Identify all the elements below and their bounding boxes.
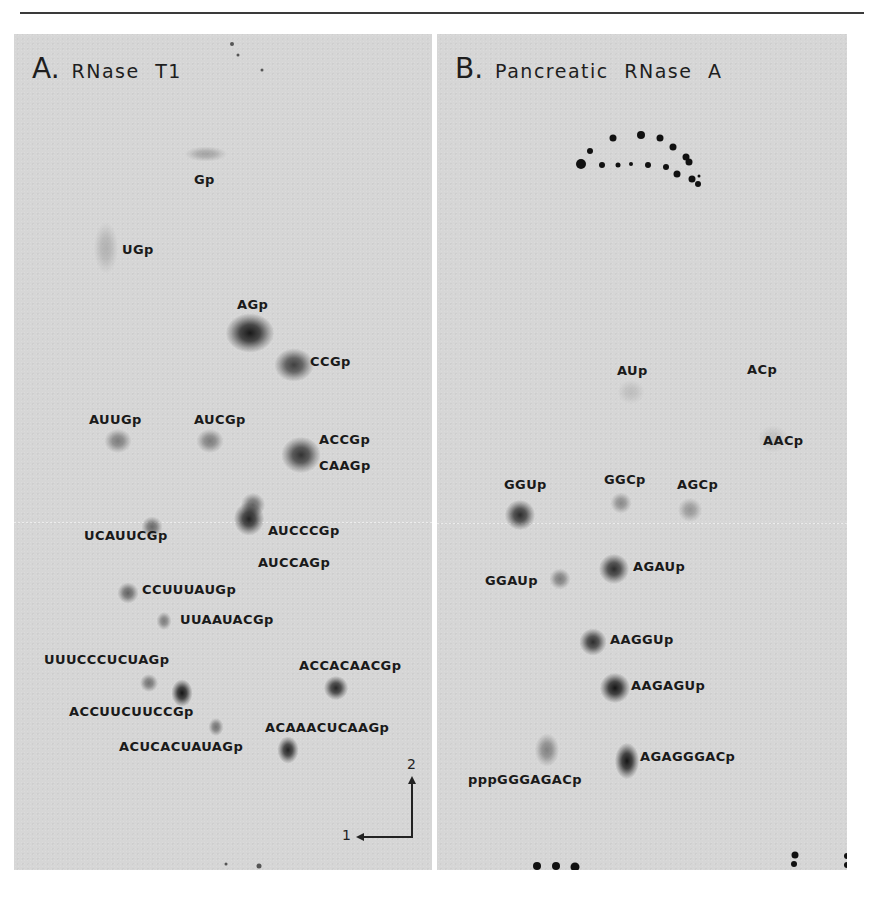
marker-dot [674,171,681,178]
spot-label: ACCUUCUUCCGp [69,704,194,719]
spot-label: ACp [747,362,777,377]
oligonucleotide-spot [234,503,264,536]
spot-label: AUCCCGp [268,523,340,538]
spot-label: GGUp [504,477,547,492]
spot-label: AUCCAGp [258,555,330,570]
spot-label: AUp [617,363,648,378]
spot-label: AAGGUp [610,632,674,647]
oligonucleotide-spot [278,737,299,764]
spot-label: CCGp [310,354,351,369]
marker-dot [844,862,847,868]
panel-a-title: A.RNase T1 [32,52,182,85]
marker-dot [599,162,605,168]
dimension-2-label: 2 [407,756,416,772]
dimension-1-arrow-icon [356,833,364,841]
stray-dot [261,69,264,72]
dimension-1-label: 1 [342,827,351,843]
oligonucleotide-spot [105,429,132,453]
stray-dot [225,863,228,866]
marker-dot [645,162,651,168]
scan-artifact-line [437,523,847,524]
page-header-rule [20,12,864,14]
marker-dot [689,176,696,183]
spot-label: AGCp [677,477,718,492]
oligonucleotide-spot [550,569,571,590]
marker-dot [663,164,669,170]
oligonucleotide-spot [324,676,348,700]
panel-b-pancreatic-rnase-a: B.Pancreatic RNase A AUpACpAACpGGUpGGCpA… [437,34,847,870]
spot-label: ACAAACUCAAGp [265,720,389,735]
oligonucleotide-spot [600,673,630,703]
oligonucleotide-spot [615,743,639,779]
marker-dot [576,159,586,169]
spot-label: ACUCACUAUAGp [119,739,243,754]
spot-label: AGp [237,297,268,312]
marker-dot [792,852,799,859]
marker-dot [657,135,664,142]
panel-b-title: B.Pancreatic RNase A [455,52,722,85]
oligonucleotide-spot [197,429,224,453]
spot-label: Gp [194,172,215,187]
marker-dot [695,181,701,187]
oligonucleotide-spot [275,349,314,382]
oligonucleotide-spot [505,500,535,530]
oligonucleotide-spot [599,554,629,584]
spot-label: ACCGp [319,432,370,447]
spot-label: AUUGp [89,412,142,427]
marker-dot [552,862,560,870]
oligonucleotide-spot [678,498,702,522]
spot-label: UCAUUCGp [84,528,168,543]
oligonucleotide-spot [185,147,227,162]
marker-dot [629,162,633,166]
marker-dot [587,148,593,154]
panel-a-rnase-t1: A.RNase T1 GpUGpAGpCCGpAUUGpAUCGpACCGpCA… [14,34,432,870]
marker-dot [610,135,617,142]
stray-dot [257,864,262,869]
oligonucleotide-spot [226,314,274,353]
oligonucleotide-spot [209,718,224,736]
oligonucleotide-spot [118,583,139,604]
panel-b-letter: B. [455,52,483,85]
scan-artifact-line [14,522,432,523]
marker-dot [571,863,580,871]
oligonucleotide-spot [172,680,193,707]
spot-label: pppGGGAGACp [468,772,582,787]
oligonucleotide-spot [157,612,172,630]
marker-dot [698,175,701,178]
marker-dot [616,163,621,168]
marker-dot [670,144,677,151]
spot-label: AGAUp [633,559,685,574]
spot-label: ACCACAACGp [299,658,401,673]
figure-caption-cropped [40,888,840,898]
spot-label: GGCp [604,472,646,487]
oligonucleotide-spot [282,437,321,473]
spot-label: AAGAGUp [631,678,705,693]
oligonucleotide-spot [611,493,632,514]
stray-dot [230,42,234,46]
marker-dot [637,131,645,139]
spot-label: UUUCCCUCUAGp [44,652,169,667]
dimension-2-axis-line [411,782,413,837]
oligonucleotide-spot [580,629,607,656]
spot-label: AGAGGGACp [640,749,735,764]
panel-a-enzyme-name: RNase T1 [72,60,182,82]
panel-a-letter: A. [32,52,60,85]
spot-label: AUCGp [194,412,246,427]
spot-label: UGp [122,242,154,257]
oligonucleotide-spot [140,674,158,692]
spot-label: AACp [763,433,804,448]
spot-label: UUAAUACGp [180,612,274,627]
marker-dot [791,861,797,867]
dimension-1-axis-line [362,836,413,838]
spot-label: GGAUp [485,573,538,588]
marker-dot [844,853,847,859]
marker-dot [533,862,541,870]
stray-dot [237,54,240,57]
spot-label: CCUUUAUGp [142,582,236,597]
oligonucleotide-spot [618,380,645,404]
marker-dot [686,159,693,166]
panel-b-enzyme-name: Pancreatic RNase A [495,60,722,82]
oligonucleotide-spot [535,734,559,767]
dimension-2-arrow-icon [408,776,416,784]
spot-label: CAAGp [319,458,371,473]
